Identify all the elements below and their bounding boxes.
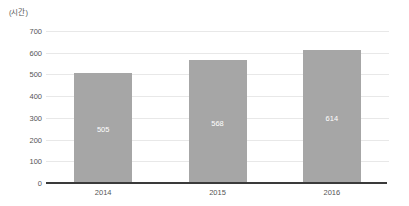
y-axis-tick-label: 500 [8, 70, 42, 79]
x-axis-tick-labels: 201420152016 [46, 188, 389, 202]
bar: 614 [303, 50, 361, 183]
y-axis-tick-label: 400 [8, 92, 42, 101]
gridline [46, 31, 389, 32]
x-axis-tick-label: 2016 [292, 188, 372, 197]
y-axis-unit-label: (시간) [9, 6, 28, 17]
bar-value-label: 614 [303, 114, 361, 123]
bar: 505 [74, 73, 132, 183]
x-axis-tick-label: 2015 [178, 188, 258, 197]
y-axis-tick-label: 600 [8, 48, 42, 57]
y-axis-tick-label: 0 [8, 179, 42, 188]
y-axis-tick-label: 700 [8, 27, 42, 36]
plot-area: 505568614 [46, 31, 389, 183]
y-axis-tick-label: 200 [8, 135, 42, 144]
bar-chart: (시간) 505568614 0100200300400500600700 20… [0, 0, 409, 206]
y-axis-tick-label: 100 [8, 157, 42, 166]
y-axis-tick-labels: 0100200300400500600700 [4, 31, 42, 183]
bar: 568 [189, 60, 247, 183]
bar-value-label: 505 [74, 125, 132, 134]
bar-value-label: 568 [189, 119, 247, 128]
y-axis-tick-label: 300 [8, 113, 42, 122]
x-axis-tick-label: 2014 [63, 188, 143, 197]
x-axis-line [46, 182, 387, 184]
